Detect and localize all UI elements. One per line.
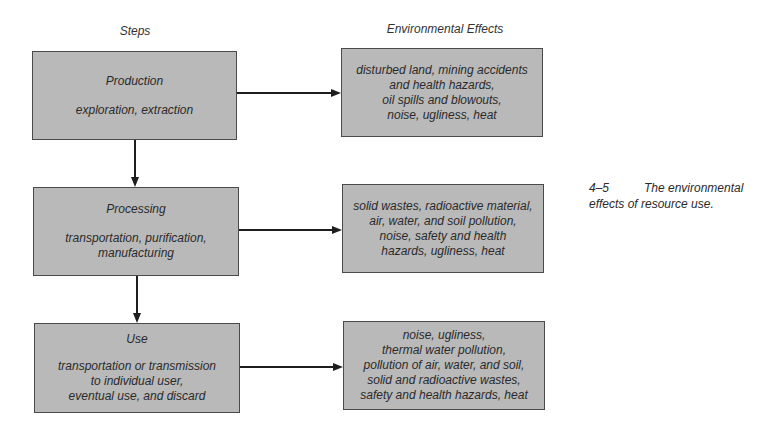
arrow-head-down-icon — [133, 313, 141, 323]
effect-box-use: noise, ugliness, thermal water pollution… — [343, 321, 545, 410]
arrow-line-production-to-effect — [237, 92, 331, 94]
step-description: transportation or transmission to indivi… — [58, 359, 216, 404]
caption-text-line2: effects of resource use. — [589, 197, 714, 211]
arrow-line-use-to-effect — [240, 366, 333, 368]
steps-column-header: Steps — [100, 24, 170, 38]
step-box-use: Use transportation or transmission to in… — [34, 323, 240, 413]
step-title: Use — [126, 332, 147, 347]
effects-column-header: Environmental Effects — [370, 22, 520, 36]
effect-box-production: disturbed land, mining accidents and hea… — [341, 48, 543, 137]
effect-box-processing: solid wastes, radioactive material, air,… — [342, 184, 544, 273]
effect-text: disturbed land, mining accidents and hea… — [356, 63, 527, 123]
step-box-processing: Processing transportation, purification,… — [33, 187, 239, 276]
step-description: transportation, purification, manufactur… — [65, 231, 206, 261]
arrow-head-down-icon — [131, 177, 139, 187]
step-box-production: Production exploration, extraction — [32, 51, 237, 140]
arrow-line-processing-to-use — [136, 276, 138, 313]
caption-text-line1: The environmental — [644, 181, 743, 195]
figure-caption: 4–5The environmental effects of resource… — [589, 180, 769, 212]
arrow-head-right-icon — [331, 89, 341, 97]
step-description: exploration, extraction — [76, 103, 193, 118]
effect-text: noise, ugliness, thermal water pollution… — [360, 328, 527, 403]
figure-number: 4–5 — [589, 180, 644, 196]
effect-text: solid wastes, radioactive material, air,… — [353, 199, 532, 259]
step-title: Production — [106, 74, 163, 89]
arrow-head-right-icon — [333, 363, 343, 371]
arrow-line-production-to-processing — [134, 140, 136, 177]
step-title: Processing — [106, 202, 165, 217]
arrow-line-processing-to-effect — [239, 229, 332, 231]
arrow-head-right-icon — [332, 226, 342, 234]
